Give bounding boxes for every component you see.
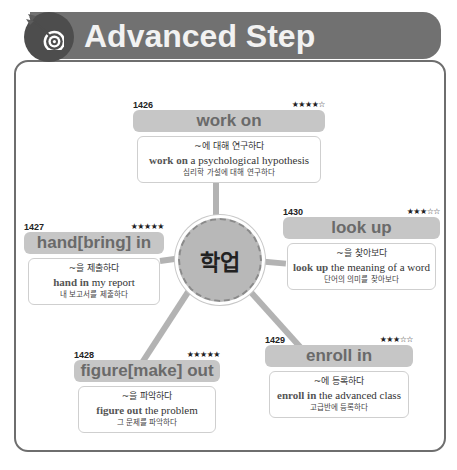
rating-stars: ★★★☆☆ (407, 207, 440, 216)
phrase-heading: hand[bring] in (24, 232, 164, 254)
rating-stars: ★★★★★ (131, 222, 164, 231)
translation: 내 보고서를 제출하다 (31, 289, 157, 301)
entry-number: 1429 (265, 335, 285, 345)
example: figure out the problem (81, 403, 213, 417)
example-rest: the problem (142, 404, 198, 416)
example-rest: my report (89, 276, 135, 288)
meaning: ~에 등록하다 (272, 375, 406, 388)
example: hand in my report (31, 275, 157, 289)
example: enroll in the advanced class (272, 388, 406, 402)
topic-hub: 학업 (178, 218, 262, 302)
entry-number: 1428 (74, 350, 94, 360)
page-title: Advanced Step (84, 14, 315, 58)
example-phrase: look up (293, 261, 328, 273)
vocab-entry-look-up: 1430 ★★★☆☆ look up ~을 찾아보다 look up the m… (283, 207, 440, 303)
translation: 고급반에 등록하다 (272, 402, 406, 414)
entry-number: 1427 (24, 222, 44, 232)
example-phrase: hand in (53, 276, 89, 288)
hub-label: 학업 (200, 244, 240, 276)
example: look up the meaning of a word (290, 260, 433, 274)
phrase-heading: enroll in (265, 345, 413, 367)
vocab-entry-hand-in: 1427 ★★★★★ hand[bring] in ~을 제출하다 hand i… (24, 222, 164, 318)
phrase-heading: look up (283, 217, 440, 239)
translation: 그 문제를 파악하다 (81, 417, 213, 429)
vocab-entry-figure-out: 1428 ★★★★★ figure[make] out ~을 파악하다 figu… (74, 350, 220, 446)
meaning: ~을 파악하다 (81, 390, 213, 403)
example-phrase: work on (149, 154, 188, 166)
definition-box: ~을 파악하다 figure out the problem 그 문제를 파악하… (78, 386, 216, 433)
definition-box: ~을 찾아보다 look up the meaning of a word 단어… (287, 243, 436, 290)
meaning: ~에 대해 연구하다 (140, 140, 318, 153)
example: work on a psychological hypothesis (140, 153, 318, 167)
rating-stars: ★★★★★ (187, 350, 220, 359)
definition-box: ~에 대해 연구하다 work on a psychological hypot… (137, 136, 321, 183)
entry-number: 1426 (133, 100, 153, 110)
example-phrase: enroll in (277, 389, 316, 401)
rating-stars: ★★★★☆ (292, 100, 325, 109)
arrow-icon (26, 14, 56, 40)
rating-stars: ★★★☆☆ (380, 335, 413, 344)
example-rest: a psychological hypothesis (188, 154, 309, 166)
example-rest: the advanced class (316, 389, 401, 401)
entry-number: 1430 (283, 207, 303, 217)
translation: 단어의 의미를 찾아보다 (290, 274, 433, 286)
example-phrase: figure out (96, 404, 142, 416)
definition-box: ~에 등록하다 enroll in the advanced class 고급반… (269, 371, 409, 418)
meaning: ~을 제출하다 (31, 262, 157, 275)
vocab-entry-work-on: 1426 ★★★★☆ work on ~에 대해 연구하다 work on a … (133, 100, 325, 196)
phrase-heading: figure[make] out (74, 360, 220, 382)
meaning: ~을 찾아보다 (290, 247, 433, 260)
vocab-entry-enroll-in: 1429 ★★★☆☆ enroll in ~에 등록하다 enroll in t… (265, 335, 413, 431)
translation: 심리학 가설에 대해 연구하다 (140, 167, 318, 179)
example-rest: the meaning of a word (328, 261, 430, 273)
definition-box: ~을 제출하다 hand in my report 내 보고서를 제출하다 (28, 258, 160, 305)
phrase-heading: work on (133, 110, 325, 132)
